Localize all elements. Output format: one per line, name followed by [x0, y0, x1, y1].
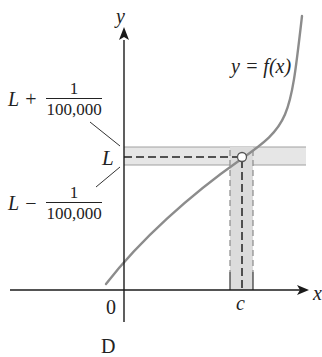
open-point-icon: [238, 153, 247, 162]
upper-bound-denominator: 100,000: [46, 99, 101, 118]
x-axis-label: x: [313, 283, 322, 303]
upper-bound-operator: +: [25, 88, 36, 110]
origin-label: 0: [106, 297, 116, 317]
lower-bound-numerator: 1: [46, 184, 101, 203]
y-axis-label: y: [116, 6, 125, 26]
L-label: L: [102, 148, 114, 169]
upper-bound-label: L + 1 100,000: [8, 80, 102, 118]
epsilon-band: [124, 147, 306, 165]
lower-bound-operator: −: [25, 192, 36, 214]
upper-bound-base: L: [8, 88, 19, 110]
c-label: c: [236, 293, 245, 313]
lower-bound-label: L − 1 100,000: [8, 184, 102, 222]
lower-bound-fraction: 1 100,000: [46, 184, 101, 222]
upper-bound-numerator: 1: [46, 80, 101, 99]
upper-bound-fraction: 1 100,000: [46, 80, 101, 118]
upper-bound-leader: [90, 122, 120, 146]
curve-label: y = f(x): [231, 56, 291, 76]
caption-partial: D: [101, 336, 115, 356]
lower-bound-denominator: 100,000: [46, 203, 101, 222]
lower-bound-base: L: [8, 192, 19, 214]
y-axis-arrow-icon: [119, 27, 129, 40]
